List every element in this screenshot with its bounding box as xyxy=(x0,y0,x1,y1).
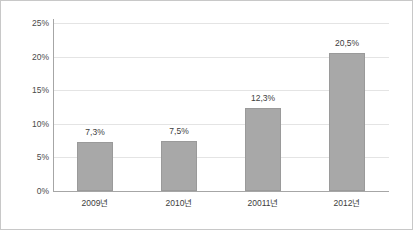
y-axis-tick-label: 20% xyxy=(5,52,49,61)
bar-value-label: 20,5% xyxy=(313,39,381,48)
y-axis-tick-label: 25% xyxy=(5,19,49,28)
bar-group: 12,3% xyxy=(229,23,297,191)
bar-value-label: 7,5% xyxy=(145,127,213,136)
y-axis-line xyxy=(53,19,54,191)
bar-group: 20,5% xyxy=(313,23,381,191)
y-axis-tick-label: 0% xyxy=(5,187,49,196)
bar[interactable] xyxy=(329,53,365,191)
bar-group: 7,5% xyxy=(145,23,213,191)
x-axis-category-label: 2012년 xyxy=(302,199,392,208)
y-axis-tick-label: 15% xyxy=(5,86,49,95)
bar-group: 7,3% xyxy=(61,23,129,191)
y-axis-tick-label: 10% xyxy=(5,120,49,129)
bar-value-label: 7,3% xyxy=(61,128,129,137)
y-axis-tick-label: 5% xyxy=(5,153,49,162)
bar[interactable] xyxy=(245,108,281,191)
plot-area: 7,3%7,5%12,3%20,5% xyxy=(53,23,389,191)
x-axis-category-label: 20011년 xyxy=(218,199,308,208)
x-axis-category-label: 2010년 xyxy=(134,199,224,208)
bar-chart-figure: 0%5%10%15%20%25% 7,3%7,5%12,3%20,5% 2009… xyxy=(0,0,413,230)
x-axis-category-label: 2009년 xyxy=(50,199,140,208)
x-axis-line xyxy=(53,191,389,192)
bar[interactable] xyxy=(161,141,197,191)
y-axis-tick-labels: 0%5%10%15%20%25% xyxy=(1,1,49,230)
bar-value-label: 12,3% xyxy=(229,94,297,103)
bar[interactable] xyxy=(77,142,113,191)
